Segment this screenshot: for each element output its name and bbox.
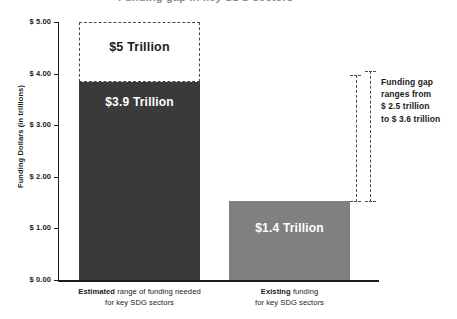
gap-bracket-inner-line bbox=[356, 75, 357, 202]
category-label-existing-line-1: Existing funding bbox=[229, 287, 350, 298]
category-label-existing-line-2: for key SDG sectors bbox=[229, 298, 350, 309]
chart-title-sliver: Funding gap in key SDG sectors bbox=[118, 0, 328, 3]
bar-estimated-value-label: $3.9 Trillion bbox=[79, 95, 200, 109]
y-tick-mark-2 bbox=[54, 177, 59, 178]
y-tick-label-1: $ 1.00 bbox=[30, 223, 51, 232]
funding-gap-note-line-1: Funding gap bbox=[381, 76, 440, 88]
category-label-estimated-line-2: for key SDG sectors bbox=[59, 298, 220, 309]
y-tick-mark-5 bbox=[54, 22, 59, 23]
y-tick-2: $ 2.00 bbox=[0, 172, 51, 182]
y-tick-5: $ 5.00 bbox=[0, 17, 51, 27]
y-axis-title: Funding Dollars (in trillions) bbox=[16, 57, 25, 217]
y-tick-mark-4 bbox=[54, 74, 59, 75]
y-tick-mark-1 bbox=[54, 228, 59, 229]
gap-bracket-outer-line bbox=[370, 71, 371, 202]
category-label-existing-rest: funding bbox=[291, 287, 318, 296]
y-tick-label-0: $ 0.00 bbox=[30, 275, 51, 284]
funding-gap-note-line-2: ranges from bbox=[381, 88, 440, 100]
y-tick-label-5: $ 5.00 bbox=[30, 17, 51, 26]
y-tick-label-4: $ 4.00 bbox=[30, 69, 51, 78]
bar-existing: $1.4 Trillion bbox=[229, 201, 350, 280]
y-tick-1: $ 1.00 bbox=[0, 223, 51, 233]
funding-gap-bar-chart: Funding gap in key SDG sectors Funding D… bbox=[0, 0, 457, 319]
category-label-existing-strong: Existing bbox=[261, 287, 291, 296]
bar-estimated: $3.9 Trillion bbox=[79, 82, 200, 280]
funding-gap-note-line-4: to $ 3.6 trillion bbox=[381, 113, 440, 125]
y-tick-3: $ 3.00 bbox=[0, 120, 51, 130]
category-label-estimated-strong: Estimated bbox=[78, 287, 115, 296]
y-tick-4: $ 4.00 bbox=[0, 69, 51, 79]
target-5-trillion-box: $5 Trillion bbox=[79, 22, 200, 82]
y-tick-0: $ 0.00 bbox=[0, 275, 51, 285]
gap-bracket-bottom-tick-right bbox=[365, 201, 376, 202]
category-label-estimated-rest: range of funding needed bbox=[115, 287, 201, 296]
funding-gap-note: Funding gap ranges from $ 2.5 trillion t… bbox=[381, 76, 440, 125]
category-label-existing: Existing funding for key SDG sectors bbox=[229, 287, 350, 308]
funding-gap-note-line-3: $ 2.5 trillion bbox=[381, 100, 440, 112]
y-tick-mark-3 bbox=[54, 125, 59, 126]
y-tick-mark-0 bbox=[54, 280, 59, 281]
target-5-trillion-label: $5 Trillion bbox=[80, 40, 199, 54]
y-tick-label-2: $ 2.00 bbox=[30, 172, 51, 181]
gap-bracket-bottom-tick-left bbox=[350, 201, 361, 202]
category-label-estimated-line-1: Estimated range of funding needed bbox=[59, 287, 220, 298]
x-axis-line bbox=[58, 280, 379, 282]
y-tick-label-3: $ 3.00 bbox=[30, 120, 51, 129]
bar-existing-value-label: $1.4 Trillion bbox=[229, 221, 350, 235]
category-label-estimated: Estimated range of funding needed for ke… bbox=[59, 287, 220, 308]
y-axis-line bbox=[58, 22, 59, 281]
